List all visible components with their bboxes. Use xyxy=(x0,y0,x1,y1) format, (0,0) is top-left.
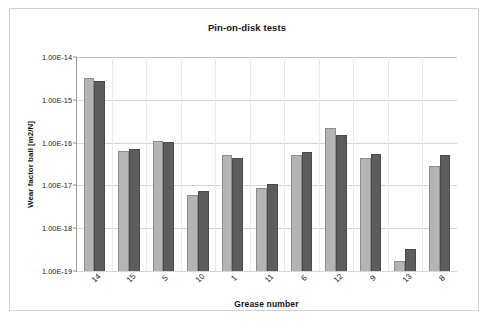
bar[interactable] xyxy=(163,142,174,271)
category-separator xyxy=(284,57,285,271)
bar[interactable] xyxy=(325,128,336,271)
y-tick-label: 1.00E-16 xyxy=(42,138,77,147)
bar[interactable] xyxy=(129,149,140,271)
y-tick-label: 1.00E-14 xyxy=(42,53,77,62)
category-separator xyxy=(353,57,354,271)
category-separator xyxy=(146,57,147,271)
category-separator xyxy=(422,57,423,271)
x-tick-labels: 14155101116129138 xyxy=(76,272,457,302)
bar[interactable] xyxy=(394,261,405,271)
bar[interactable] xyxy=(94,81,105,271)
bar[interactable] xyxy=(440,155,451,271)
bar[interactable] xyxy=(429,166,440,271)
y-axis-title: Wear factor ball [m2/N] xyxy=(24,57,37,272)
bar[interactable] xyxy=(267,184,278,271)
bar[interactable] xyxy=(118,151,129,271)
chart-title: Pin-on-disk tests xyxy=(0,22,494,33)
y-tick-label: 1.00E-19 xyxy=(42,267,77,276)
y-tick-label: 1.00E-18 xyxy=(42,224,77,233)
bar[interactable] xyxy=(84,78,95,271)
category-separator xyxy=(112,57,113,271)
bar-group xyxy=(360,57,381,271)
bar-group xyxy=(429,57,450,271)
bar[interactable] xyxy=(291,155,302,271)
bar-group xyxy=(153,57,174,271)
x-axis-title: Grease number xyxy=(76,299,457,309)
bar[interactable] xyxy=(371,154,382,271)
bar-group xyxy=(256,57,277,271)
bar[interactable] xyxy=(187,195,198,271)
bar-group xyxy=(222,57,243,271)
bar[interactable] xyxy=(222,155,233,271)
category-separator xyxy=(319,57,320,271)
y-tick-label: 1.00E-15 xyxy=(42,95,77,104)
figure-container: Pin-on-disk tests Wear factor ball [m2/N… xyxy=(0,0,494,332)
category-separator xyxy=(215,57,216,271)
bar-group xyxy=(325,57,346,271)
y-tick-label: 1.00E-17 xyxy=(42,181,77,190)
bar[interactable] xyxy=(232,158,243,271)
bar[interactable] xyxy=(360,158,371,271)
plot-area: 1.00E-141.00E-151.00E-161.00E-171.00E-18… xyxy=(76,57,457,272)
category-separator xyxy=(181,57,182,271)
bar-group xyxy=(118,57,139,271)
bar[interactable] xyxy=(153,141,164,271)
bar-group xyxy=(291,57,312,271)
bar[interactable] xyxy=(198,191,209,271)
bar[interactable] xyxy=(256,188,267,271)
bar-group xyxy=(187,57,208,271)
category-separator xyxy=(388,57,389,271)
category-separator xyxy=(250,57,251,271)
y-axis-title-text: Wear factor ball [m2/N] xyxy=(24,57,37,272)
bar-group xyxy=(84,57,105,271)
bar-group xyxy=(394,57,415,271)
bar[interactable] xyxy=(302,152,313,271)
bar[interactable] xyxy=(336,135,347,271)
